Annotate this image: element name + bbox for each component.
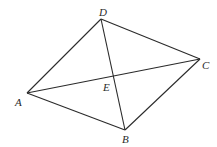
segment-ba — [27, 93, 125, 130]
quadrilateral-diagram: A B C D E — [0, 0, 217, 147]
segment-dc — [101, 19, 200, 59]
segment-cb — [125, 59, 200, 130]
label-d: D — [98, 6, 107, 18]
label-e: E — [102, 81, 110, 93]
label-b: B — [122, 133, 129, 145]
label-c: C — [202, 59, 210, 71]
segment-ad — [27, 19, 101, 93]
edges — [27, 19, 200, 130]
label-a: A — [14, 96, 22, 108]
vertex-labels: A B C D E — [14, 6, 210, 145]
